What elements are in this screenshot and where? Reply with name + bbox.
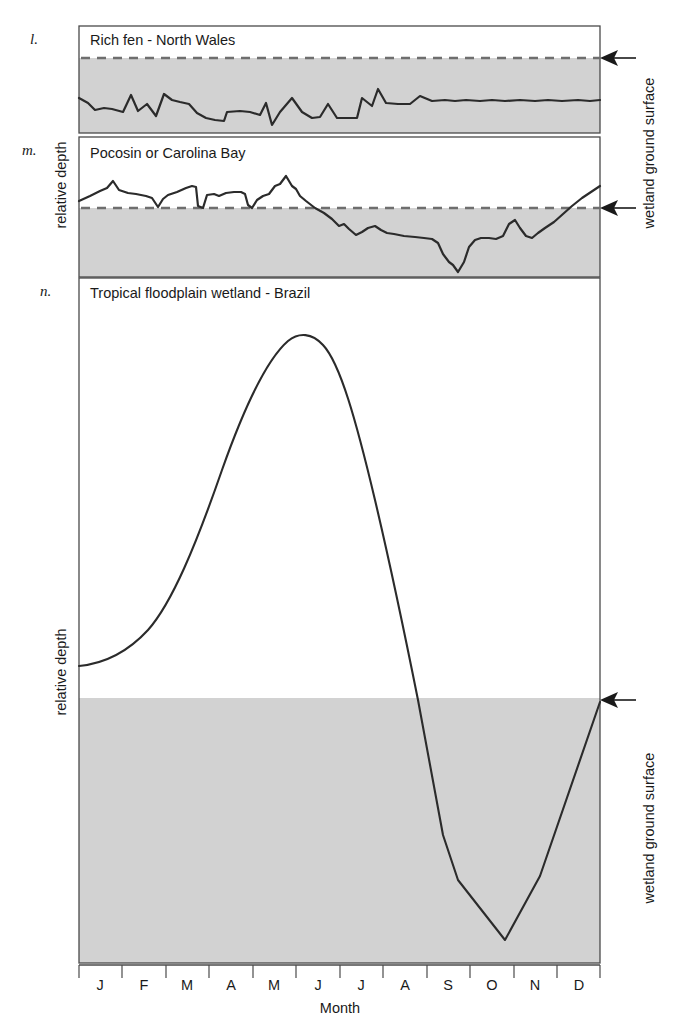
panel-l-title: Rich fen - North Wales [90, 32, 235, 48]
panel-n-ground-surface-arrow [600, 692, 636, 708]
x-tick-nov: N [530, 977, 540, 993]
panel-letter-l: l. [30, 31, 38, 47]
x-axis-title: Month [320, 1000, 360, 1016]
panel-rich-fen: l. Rich fen - North Wales [30, 26, 636, 133]
panel-letter-n: n. [40, 283, 51, 299]
x-tick-jan: J [96, 977, 103, 993]
x-tick-feb: F [140, 977, 149, 993]
x-tick-apr: A [226, 977, 236, 993]
x-tick-sep: S [443, 977, 453, 993]
y-axis-label-upper: relative depth [53, 141, 69, 228]
panel-m-ground-surface-arrow [600, 200, 636, 216]
x-tick-dec: D [574, 977, 584, 993]
right-label-upper: wetland ground surface [641, 78, 657, 230]
x-tick-jun: J [314, 977, 321, 993]
panel-l-ground-surface-arrow [600, 50, 636, 66]
panel-pocosin: m. Pocosin or Carolina Bay [22, 137, 636, 277]
panel-n-shaded-subsurface [79, 698, 600, 963]
x-tick-aug: A [400, 977, 410, 993]
x-tick-jul: J [357, 977, 364, 993]
y-axis-label-lower: relative depth [53, 628, 69, 715]
x-tick-oct: O [486, 977, 497, 993]
figure-svg: l. Rich fen - North Wales m. Pocosin or … [0, 0, 673, 1030]
x-tick-mar: M [181, 977, 193, 993]
x-axis: J F M A M J J A S O N D Month [79, 965, 600, 1016]
panel-m-shaded-subsurface [79, 208, 600, 277]
x-tick-may: M [268, 977, 280, 993]
panel-tropical-floodplain: n. Tropical floodplain wetland - Brazil [40, 278, 636, 963]
panel-letter-m: m. [22, 142, 37, 158]
panel-m-title: Pocosin or Carolina Bay [90, 145, 246, 161]
right-label-lower: wetland ground surface [641, 753, 657, 905]
wetland-hydrograph-figure: l. Rich fen - North Wales m. Pocosin or … [0, 0, 673, 1030]
panel-l-shaded-subsurface [79, 58, 600, 133]
panel-n-title: Tropical floodplain wetland - Brazil [90, 285, 310, 301]
